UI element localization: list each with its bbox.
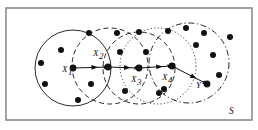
scatter-point — [122, 88, 128, 94]
label-x2-subscript: 2 — [99, 51, 104, 61]
scatter-point — [38, 60, 44, 66]
scatter-point — [227, 34, 233, 40]
scatter-point — [201, 30, 207, 36]
scatter-point — [165, 28, 171, 34]
scatter-point — [161, 86, 167, 92]
label-s-base: S — [229, 106, 234, 116]
scatter-point — [156, 90, 162, 96]
scatter-point — [143, 49, 149, 55]
label-x1-subscript: 1 — [68, 67, 73, 77]
node-x2 — [105, 64, 112, 71]
label-x4-subscript: 4 — [168, 75, 173, 85]
scatter-point — [117, 49, 123, 55]
node-x3 — [136, 65, 143, 72]
scatter-point — [42, 81, 48, 87]
scatter-point — [136, 29, 142, 35]
scatter-point — [75, 97, 81, 103]
diagram-canvas: X1X2X3X4YS — [0, 0, 258, 130]
label-x3-subscript: 3 — [136, 77, 142, 87]
scatter-point — [183, 25, 189, 31]
scatter-point — [114, 30, 120, 36]
scatter-point — [210, 52, 216, 58]
scatter-point — [193, 42, 199, 48]
label-s: S — [229, 106, 234, 116]
scatter-point — [88, 81, 94, 87]
node-x4 — [169, 63, 176, 70]
figure-container: X1X2X3X4YS — [0, 0, 258, 130]
scatter-point — [216, 72, 222, 78]
scatter-point — [86, 30, 92, 36]
node-y — [204, 81, 211, 88]
scatter-point — [58, 47, 64, 53]
